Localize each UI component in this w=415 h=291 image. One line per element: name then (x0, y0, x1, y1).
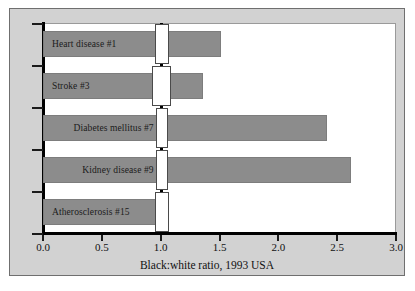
confidence-interval-box (155, 192, 169, 232)
confidence-interval-box (156, 150, 168, 190)
y-axis-tick (32, 65, 43, 67)
confidence-interval-box (152, 66, 171, 106)
x-axis-tick-label: 1.5 (213, 241, 227, 253)
y-axis-tick (32, 107, 43, 109)
bar: Heart disease #1 (43, 31, 221, 57)
x-axis-title: Black:white ratio, 1993 USA (10, 259, 404, 271)
y-axis-tick (32, 149, 43, 151)
y-axis-tick (32, 23, 43, 25)
bar-label: Heart disease #1 (52, 39, 116, 49)
x-axis-tick-label: 0.0 (36, 241, 50, 253)
bar: Diabetes mellitus #7 (43, 115, 327, 141)
chart-screenshot: Heart disease #1Stroke #3Diabetes mellit… (0, 0, 415, 291)
bar: Kidney disease #9 (43, 157, 351, 183)
bar-label: Stroke #3 (52, 81, 90, 91)
x-axis-tick-label: 0.5 (95, 241, 109, 253)
bar-label: Atherosclerosis #15 (52, 207, 130, 217)
figure-card: Heart disease #1Stroke #3Diabetes mellit… (9, 8, 405, 276)
x-axis-tick-label: 1.0 (154, 241, 168, 253)
bar-label: Diabetes mellitus #7 (74, 123, 154, 133)
confidence-interval-box (155, 24, 169, 64)
x-axis-tick-label: 2.5 (330, 241, 344, 253)
x-axis-tick-label: 3.0 (389, 241, 403, 253)
x-axis-tick-label: 2.0 (271, 241, 285, 253)
bar: Atherosclerosis #15 (43, 199, 163, 225)
confidence-interval-box (156, 108, 168, 148)
y-axis-tick (32, 191, 43, 193)
bar: Stroke #3 (43, 73, 203, 99)
bar-label: Kidney disease #9 (82, 165, 153, 175)
